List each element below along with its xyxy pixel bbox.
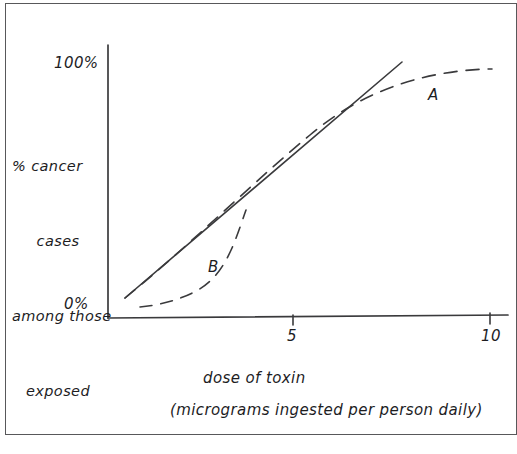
curve-label-b: B	[208, 258, 219, 276]
y-axis-bottom-label: 0%	[64, 295, 89, 313]
y-axis-title-line-2: cases	[12, 229, 104, 254]
x-axis-subtitle: (micrograms ingested per person daily)	[170, 401, 483, 419]
y-axis-title-line-3: among those	[12, 304, 104, 329]
y-axis-title-line-4: exposed	[12, 379, 104, 404]
y-axis-title: % cancer cases among those exposed	[12, 104, 104, 454]
figure-root: % cancer cases among those exposed 100% …	[0, 0, 517, 454]
y-axis-top-label: 100%	[54, 54, 98, 72]
curve-label-a: A	[428, 86, 439, 104]
figure-caption	[0, 441, 517, 454]
x-tick-label-5: 5	[287, 327, 297, 345]
x-tick-label-10: 10	[481, 327, 501, 345]
y-axis-title-line-1: % cancer	[12, 154, 104, 179]
x-axis-title: dose of toxin	[203, 369, 306, 387]
